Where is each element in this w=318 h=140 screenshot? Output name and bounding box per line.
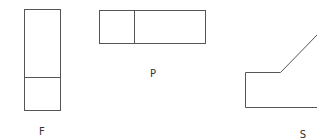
front-view	[25, 10, 61, 111]
diagram-canvas: F P S	[0, 0, 317, 140]
projection-drawing	[0, 0, 317, 140]
side-view-label: S	[300, 129, 306, 140]
front-view-label: F	[39, 126, 45, 137]
side-view	[246, 34, 318, 108]
plan-view	[100, 11, 206, 44]
plan-view-label: P	[150, 68, 156, 79]
